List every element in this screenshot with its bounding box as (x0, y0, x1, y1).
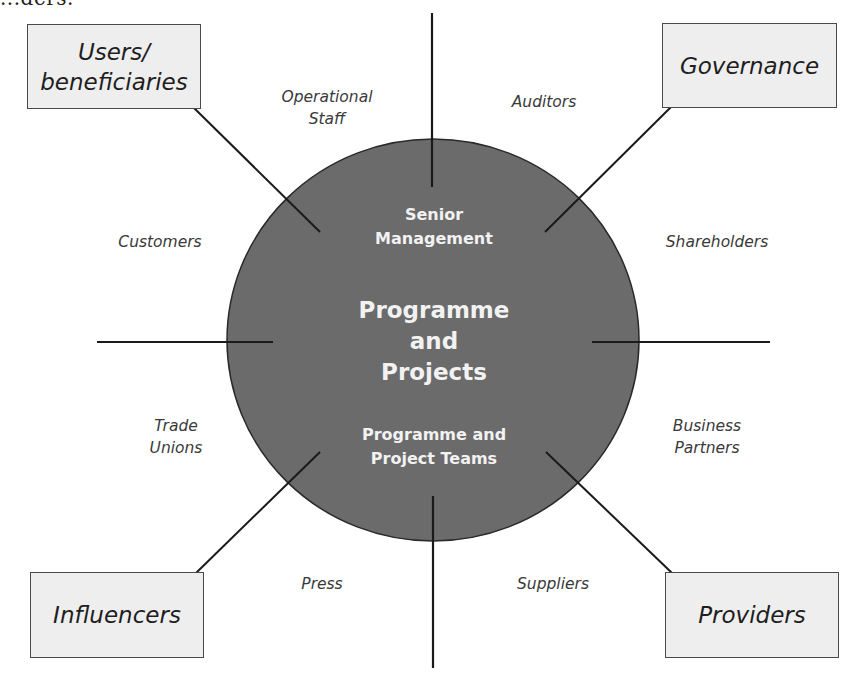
label-trade-unions: Trade Unions (150, 415, 203, 459)
label-customers: Customers (118, 231, 201, 253)
label-shareholders: Shareholders (666, 231, 769, 253)
box-influencers: Influencers (30, 572, 204, 658)
label-senior-management: Senior Management (375, 203, 493, 251)
stakeholder-diagram: ...ders. Users/ beneficiaries Governance… (0, 0, 861, 688)
box-governance: Governance (662, 23, 837, 108)
label-press: Press (301, 573, 342, 595)
label-business-partners: Business Partners (673, 415, 741, 459)
box-providers: Providers (665, 572, 839, 658)
label-suppliers: Suppliers (517, 573, 589, 595)
label-auditors: Auditors (512, 91, 577, 113)
connector-governance (545, 107, 671, 232)
cropped-heading-fragment: ...ders. (0, 0, 74, 10)
box-users-beneficiaries: Users/ beneficiaries (27, 24, 201, 109)
label-programme-and-projects: Programme and Projects (359, 295, 510, 388)
label-programme-and-project-teams: Programme and Project Teams (362, 423, 506, 471)
label-operational-staff: Operational Staff (282, 86, 373, 130)
connector-influencers (196, 452, 320, 573)
connector-providers (546, 452, 672, 573)
